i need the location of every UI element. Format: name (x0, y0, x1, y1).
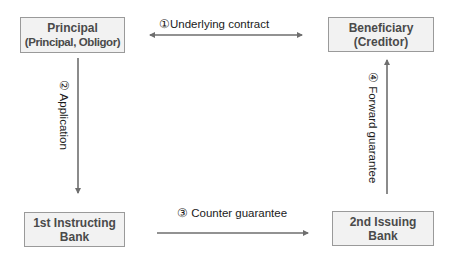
issuing-bank-title: 2nd Issuing (350, 215, 417, 229)
beneficiary-node: Beneficiary (Creditor) (328, 17, 434, 52)
counter-guarantee-label: ③ Counter guarantee (177, 206, 287, 220)
issuing-bank-subtitle: Bank (368, 229, 397, 243)
application-label: ② Application (57, 80, 71, 150)
beneficiary-title: Beneficiary (349, 21, 414, 35)
principal-node: Principal (Principal, Obligor) (20, 17, 125, 53)
principal-subtitle: (Principal, Obligor) (25, 35, 121, 49)
instructing-bank-title: 1st Instructing (33, 216, 116, 230)
beneficiary-subtitle: (Creditor) (354, 35, 409, 49)
forward-guarantee-label: ④ Forward guarantee (366, 72, 380, 183)
underlying-contract-label: ①Underlying contract (159, 17, 269, 31)
principal-title: Principal (47, 21, 98, 35)
instructing-bank-subtitle: Bank (60, 230, 89, 244)
issuing-bank-node: 2nd Issuing Bank (332, 211, 434, 246)
instructing-bank-node: 1st Instructing Bank (24, 212, 125, 247)
